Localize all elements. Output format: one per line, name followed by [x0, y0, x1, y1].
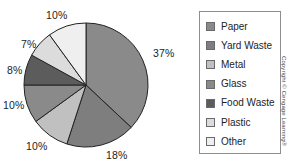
legend-item-label: Yard Waste	[221, 41, 272, 51]
legend-swatch-icon	[206, 60, 215, 69]
legend-swatch-icon	[206, 137, 215, 146]
legend-swatch-icon	[206, 99, 215, 108]
legend-item-food-waste[interactable]: Food Waste	[206, 94, 280, 113]
slice-value-label-food-waste: 8%	[7, 65, 23, 76]
legend-item-label: Plastic	[221, 118, 250, 128]
legend-item-label: Food Waste	[221, 98, 275, 108]
legend-item-label: Glass	[221, 79, 247, 89]
pie-chart-figure: 37% 18% 10% 10% 8% 7% 10% Paper Yard Was…	[0, 0, 300, 166]
copyright-notice: Copyright © Cengage Learning®	[281, 56, 287, 146]
pie-plot-area: 37% 18% 10% 10% 8% 7% 10%	[0, 0, 196, 166]
legend-item-label: Metal	[221, 60, 245, 70]
legend-item-paper[interactable]: Paper	[206, 17, 280, 36]
legend: Paper Yard Waste Metal Glass Food Waste …	[199, 11, 281, 154]
pie-slice-group	[24, 23, 148, 147]
slice-value-label-glass: 10%	[3, 100, 25, 111]
legend-swatch-icon	[206, 22, 215, 31]
legend-swatch-icon	[206, 41, 215, 50]
slice-value-label-metal: 10%	[26, 141, 48, 152]
legend-swatch-icon	[206, 118, 215, 127]
legend-item-other[interactable]: Other	[206, 132, 280, 151]
legend-item-glass[interactable]: Glass	[206, 75, 280, 94]
legend-item-plastic[interactable]: Plastic	[206, 113, 280, 132]
legend-item-metal[interactable]: Metal	[206, 55, 280, 74]
legend-item-label: Paper	[221, 22, 248, 32]
legend-item-label: Other	[221, 137, 246, 147]
slice-value-label-paper: 37%	[153, 48, 175, 59]
slice-value-label-yard-waste: 18%	[106, 150, 128, 161]
legend-swatch-icon	[206, 80, 215, 89]
legend-item-yard-waste[interactable]: Yard Waste	[206, 36, 280, 55]
slice-value-label-other: 10%	[46, 10, 68, 21]
slice-value-label-plastic: 7%	[21, 39, 37, 50]
